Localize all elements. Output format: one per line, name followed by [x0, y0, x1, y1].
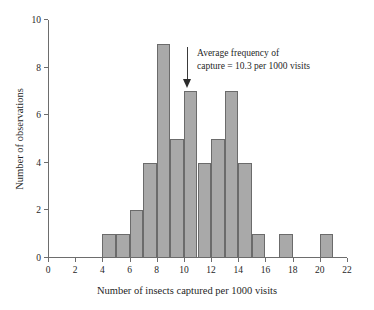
histogram-bar — [252, 234, 266, 258]
mean-annotation-line-2: capture = 10.3 per 1000 visits — [197, 60, 310, 73]
y-axis-title: Number of observations — [14, 20, 28, 258]
y-tick-label: 6 — [36, 110, 41, 120]
histogram-bar — [211, 139, 225, 258]
histogram-bar — [102, 234, 116, 258]
histogram-bar — [143, 163, 157, 258]
y-tick-label: 2 — [36, 205, 41, 215]
y-tick-label: 4 — [36, 158, 41, 168]
histogram-figure: 0246810121416182022 0246810 Average freq… — [0, 0, 374, 310]
y-tick-mark — [44, 257, 48, 258]
x-tick-label: 18 — [288, 265, 298, 275]
y-tick-mark — [44, 67, 48, 68]
x-tick-mark — [293, 258, 294, 262]
y-tick-mark — [44, 209, 48, 210]
x-tick-mark — [347, 258, 348, 262]
histogram-bar — [279, 234, 293, 258]
mean-arrow-icon — [183, 47, 192, 89]
x-axis-title: Number of insects captured per 1000 visi… — [0, 285, 374, 296]
y-tick-label: 0 — [36, 253, 41, 263]
arrow-head — [183, 79, 191, 88]
x-tick-mark — [75, 258, 76, 262]
y-tick-mark — [44, 162, 48, 163]
x-tick-label: 8 — [154, 265, 159, 275]
x-tick-label: 10 — [179, 265, 189, 275]
x-tick-mark — [320, 258, 321, 262]
y-tick-label: 8 — [36, 63, 41, 73]
histogram-bar — [170, 139, 184, 258]
x-tick-label: 6 — [127, 265, 132, 275]
x-tick-label: 12 — [206, 265, 216, 275]
y-tick-mark — [44, 114, 48, 115]
x-tick-mark — [184, 258, 185, 262]
x-tick-mark — [48, 258, 49, 262]
histogram-bar — [157, 44, 171, 258]
histogram-bar — [184, 91, 198, 258]
x-tick-label: 4 — [100, 265, 105, 275]
x-tick-label: 0 — [46, 265, 51, 275]
y-tick-label: 10 — [32, 15, 42, 25]
histogram-bar — [116, 234, 130, 258]
x-tick-label: 14 — [234, 265, 244, 275]
x-tick-mark — [265, 258, 266, 262]
x-tick-label: 22 — [342, 265, 352, 275]
histogram-bar — [225, 91, 239, 258]
histogram-bar — [238, 163, 252, 258]
mean-annotation: Average frequency of capture = 10.3 per … — [197, 47, 310, 72]
x-tick-mark — [211, 258, 212, 262]
y-tick-mark — [44, 19, 48, 20]
x-tick-mark — [102, 258, 103, 262]
arrow-shaft — [187, 47, 188, 81]
histogram-bar — [198, 163, 212, 258]
x-tick-mark — [157, 258, 158, 262]
mean-annotation-line-1: Average frequency of — [197, 47, 310, 60]
histogram-bar — [130, 210, 144, 258]
x-tick-label: 20 — [315, 265, 325, 275]
x-tick-label: 16 — [261, 265, 271, 275]
x-tick-mark — [238, 258, 239, 262]
x-tick-label: 2 — [73, 265, 78, 275]
histogram-bar — [320, 234, 334, 258]
y-axis-line — [48, 20, 49, 258]
x-tick-mark — [130, 258, 131, 262]
